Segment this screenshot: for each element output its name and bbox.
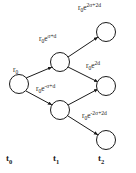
time-axis-label-t0: t0 bbox=[6, 154, 12, 163]
tree-node bbox=[97, 77, 116, 96]
tree-node bbox=[51, 53, 70, 72]
tree-node bbox=[10, 75, 29, 94]
node-value-label: r0e-2σ+2d bbox=[82, 112, 107, 119]
axis-label-subscript: 1 bbox=[56, 158, 59, 165]
tree-edge bbox=[68, 37, 98, 57]
label-superscript: -σ+d bbox=[44, 83, 55, 89]
time-axis-label-t2: t2 bbox=[98, 154, 104, 163]
nodes-group bbox=[10, 23, 116, 150]
tree-node bbox=[97, 131, 116, 150]
tree-node bbox=[97, 23, 116, 42]
axis-label-subscript: 0 bbox=[9, 158, 12, 165]
label-superscript: 2d bbox=[94, 60, 100, 66]
node-value-label: r0e2σ+2d bbox=[78, 4, 101, 11]
node-value-label: r0e2d bbox=[86, 62, 100, 69]
label-superscript: 2σ+2d bbox=[86, 2, 101, 8]
node-value-label: r0e-σ+d bbox=[36, 85, 55, 92]
tree-edge bbox=[26, 67, 52, 78]
label-subscript: 0 bbox=[15, 69, 18, 75]
node-value-label: r0eσ+d bbox=[39, 35, 56, 42]
binomial-tree-figure: r0r0eσ+dr0e-σ+dr0e2σ+2dr0e2dr0e-2σ+2d t0… bbox=[0, 0, 136, 173]
tree-node bbox=[51, 101, 70, 120]
tree-edge bbox=[68, 89, 98, 105]
label-superscript: -2σ+2d bbox=[90, 110, 106, 116]
time-axis-label-t1: t1 bbox=[53, 154, 59, 163]
label-superscript: σ+d bbox=[47, 33, 56, 39]
axis-label-subscript: 2 bbox=[101, 158, 104, 165]
tree-graphics bbox=[0, 0, 136, 173]
node-value-label: r0 bbox=[13, 66, 18, 73]
